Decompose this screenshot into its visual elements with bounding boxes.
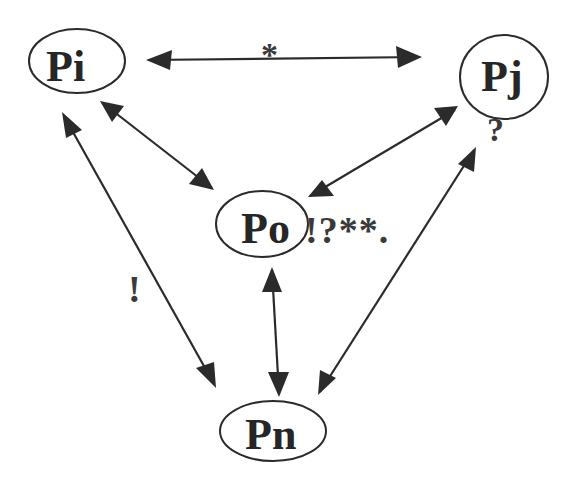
arrowhead-icon — [268, 372, 289, 397]
arrowhead-icon — [189, 168, 214, 190]
arrowhead-icon — [458, 147, 476, 172]
node-pj-label: Pj — [481, 52, 523, 101]
node-po-label: Po — [241, 204, 290, 253]
edge-pi-pj-label: * — [261, 36, 278, 73]
node-pi-label: Pi — [46, 42, 85, 91]
arrowhead-icon — [146, 50, 172, 70]
pj-question-label: ? — [487, 111, 504, 148]
edge-pi-po — [104, 104, 212, 188]
arrowhead-icon — [434, 106, 458, 126]
edge-pi-pn — [64, 116, 214, 384]
arrowhead-icon — [62, 112, 82, 138]
arrowhead-icon — [308, 180, 334, 197]
edge-pj-pn — [320, 150, 474, 392]
po-suffix-label: !?**. — [305, 209, 389, 251]
node-pn-label: Pn — [245, 410, 296, 459]
arrowhead-icon — [196, 362, 216, 388]
edge-pi-pn-label: ! — [128, 268, 141, 310]
arrowhead-icon — [100, 101, 124, 122]
diagram-canvas: Pi Pj Po Pn * ? !?**. ! — [0, 0, 577, 478]
edge-pj-po — [310, 110, 455, 196]
arrowhead-icon — [318, 370, 336, 395]
diagram-svg: Pi Pj Po Pn * ? !?**. ! — [0, 0, 577, 478]
edge-pi-pj — [148, 57, 420, 60]
arrowhead-icon — [262, 267, 282, 292]
arrowhead-icon — [396, 46, 422, 68]
